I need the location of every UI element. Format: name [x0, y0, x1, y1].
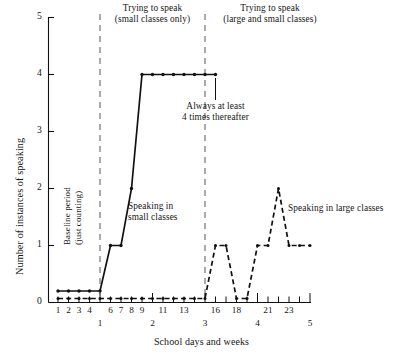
small-classes-label-line1: Speaking in: [128, 201, 173, 211]
small-classes-label-line2: small classes: [128, 212, 178, 222]
x-day-label-18: 18: [229, 305, 245, 315]
x-week-label-5: 5: [302, 318, 318, 328]
y-tick-label-4: 4: [28, 68, 42, 79]
x-axis-title: School days and weeks: [0, 336, 403, 347]
large-classes-label: Speaking in large classes: [288, 203, 384, 213]
series-large-classes-points: [57, 187, 312, 300]
x-day-label-9: 9: [134, 305, 150, 315]
baseline-label-line1: Baseline period: [62, 187, 72, 245]
y-tick-label-0: 0: [28, 296, 42, 307]
x-week-label-2: 2: [145, 318, 161, 328]
x-day-label-4: 4: [82, 305, 98, 315]
x-day-label-21: 21: [260, 305, 276, 315]
x-day-label-11: 11: [155, 305, 171, 315]
phase-1-title-line2: (small classes only): [100, 14, 205, 24]
chart-plot-svg: [0, 0, 403, 357]
chart-container: 5 4 3 2 1 0 Number of instances of speak…: [0, 0, 403, 357]
x-week-label-4: 4: [250, 318, 266, 328]
x-week-label-1: 1: [92, 318, 108, 328]
y-axis-title: Number of instances of speaking: [14, 138, 25, 275]
note-line2: 4 times thereafter: [160, 112, 271, 122]
y-tick-label-2: 2: [28, 182, 42, 193]
note-line1: Always at least: [160, 101, 271, 111]
y-tick-label-5: 5: [28, 11, 42, 22]
x-week-label-3: 3: [197, 318, 213, 328]
y-tick-label-3: 3: [28, 125, 42, 136]
series-large-classes-line: [58, 189, 310, 299]
x-day-label-16: 16: [208, 305, 224, 315]
phase-2-title-line1: Trying to speak: [205, 3, 335, 13]
x-day-label-23: 23: [281, 305, 297, 315]
x-day-label-13: 13: [176, 305, 192, 315]
y-tick-label-1: 1: [28, 239, 42, 250]
y-axis-ticks: [49, 18, 55, 303]
phase-1-title-line1: Trying to speak: [100, 3, 205, 13]
phase-2-title-line2: (large and small classes): [205, 14, 335, 24]
baseline-label-line2: (just counting): [73, 191, 83, 245]
